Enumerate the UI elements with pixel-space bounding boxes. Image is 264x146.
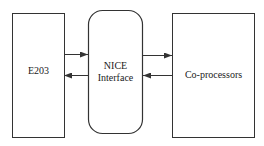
nice-label-line2: Interface [88,72,143,84]
coprocessors-label: Co-processors [172,69,255,81]
nice-label-line1: NICE [88,60,143,72]
e203-label: E203 [12,65,65,77]
